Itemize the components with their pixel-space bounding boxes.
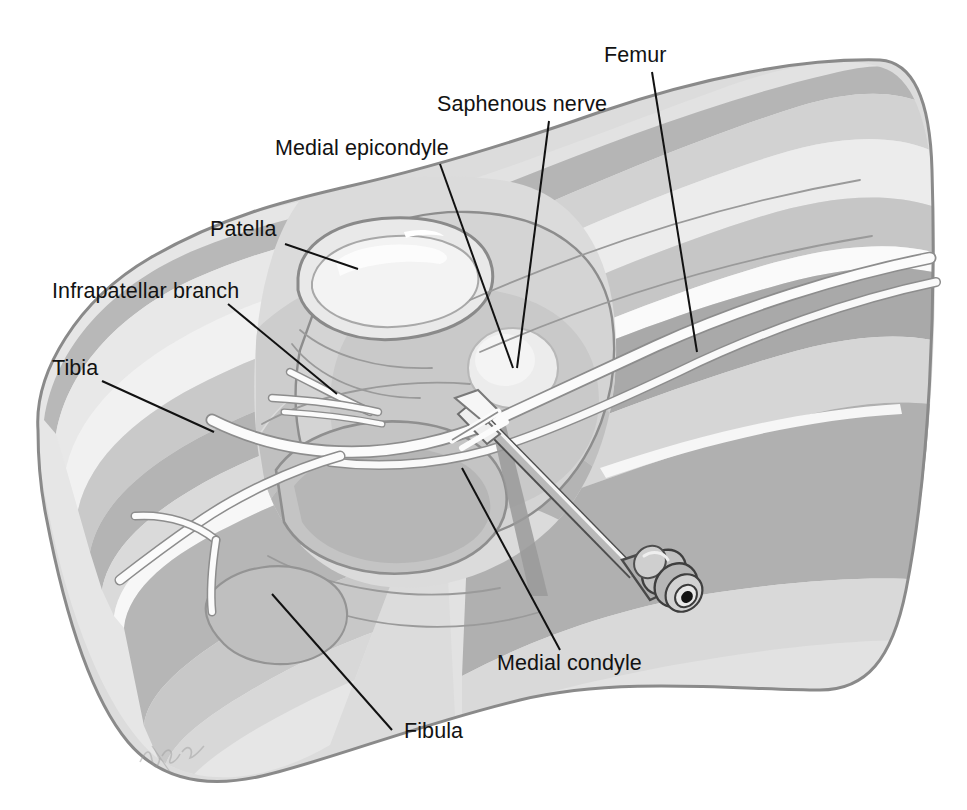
label-fibula: Fibula <box>404 719 463 743</box>
label-tibia: Tibia <box>52 356 98 380</box>
label-saphenous-nerve: Saphenous nerve <box>437 92 607 116</box>
label-medial-condyle: Medial condyle <box>497 651 642 675</box>
label-infrapatellar-branch: Infrapatellar branch <box>52 279 239 303</box>
label-medial-epicondyle: Medial epicondyle <box>275 136 449 160</box>
label-femur: Femur <box>604 43 667 67</box>
anatomy-illustration: Femur Saphenous nerve Medial epicondyle … <box>0 0 967 810</box>
anatomy-figure: Femur Saphenous nerve Medial epicondyle … <box>0 0 967 810</box>
label-patella: Patella <box>210 217 276 241</box>
